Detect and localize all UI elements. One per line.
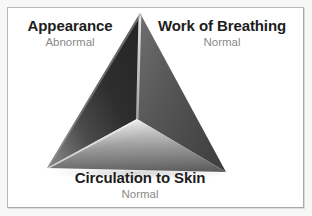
- label-appearance-status: Abnormal: [14, 36, 126, 49]
- label-appearance: Appearance Abnormal: [14, 18, 126, 49]
- label-work-of-breathing: Work of Breathing Normal: [158, 18, 286, 49]
- label-circulation-to-skin-title: Circulation to Skin: [72, 170, 208, 187]
- label-circulation-to-skin-status: Normal: [72, 188, 208, 201]
- label-circulation-to-skin: Circulation to Skin Normal: [72, 170, 208, 201]
- figure-screenshot: Appearance Abnormal Work of Breathing No…: [0, 0, 312, 216]
- label-work-of-breathing-title: Work of Breathing: [158, 18, 286, 35]
- label-appearance-title: Appearance: [14, 18, 126, 35]
- label-work-of-breathing-status: Normal: [158, 36, 286, 49]
